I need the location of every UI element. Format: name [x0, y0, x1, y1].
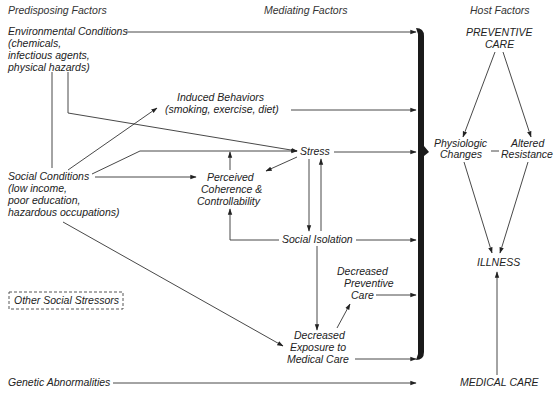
causal-model-diagram: Predisposing Factors Mediating Factors H…	[0, 0, 554, 394]
svg-text:infectious agents,: infectious agents,	[8, 49, 90, 61]
svg-text:Medical Care: Medical Care	[287, 353, 349, 365]
svg-text:Resistance: Resistance	[501, 148, 553, 160]
node-physiologic-changes: Physiologic Changes	[434, 137, 488, 160]
node-social-isolation: Social Isolation	[282, 233, 353, 245]
svg-text:(chemicals,: (chemicals,	[8, 37, 61, 49]
svg-text:Environmental Conditions: Environmental Conditions	[8, 25, 128, 37]
node-genetic-abnormalities: Genetic Abnormalities	[8, 376, 111, 388]
svg-text:Induced Behaviors: Induced Behaviors	[177, 91, 265, 103]
svg-text:Changes: Changes	[440, 148, 483, 160]
svg-text:hazardous occupations): hazardous occupations)	[8, 206, 120, 218]
connectors	[52, 32, 531, 383]
node-other-social-stressors: Other Social Stressors	[9, 292, 123, 309]
node-illness: ILLNESS	[477, 256, 520, 268]
node-preventive-care: PREVENTIVE CARE	[466, 26, 534, 50]
node-altered-resistance: Altered Resistance	[501, 137, 553, 160]
svg-text:Preventive: Preventive	[344, 277, 394, 289]
convergence-bracket	[416, 28, 429, 360]
svg-text:physical hazards): physical hazards)	[7, 61, 90, 73]
svg-text:(low income,: (low income,	[8, 182, 67, 194]
svg-text:poor education,: poor education,	[7, 194, 80, 206]
svg-text:Exposure to: Exposure to	[290, 341, 346, 353]
svg-text:CARE: CARE	[485, 38, 515, 50]
svg-text:Social Conditions: Social Conditions	[8, 170, 90, 182]
node-decreased-preventive-care: Decreased Preventive Care	[337, 265, 394, 301]
svg-text:(smoking, exercise, diet): (smoking, exercise, diet)	[165, 103, 279, 115]
svg-text:Other Social Stressors: Other Social Stressors	[14, 294, 120, 306]
node-perceived-coherence: Perceived Coherence & Controllability	[197, 171, 262, 207]
svg-text:Care: Care	[351, 289, 374, 301]
svg-text:Controllability: Controllability	[197, 195, 261, 207]
node-medical-care: MEDICAL CARE	[460, 376, 540, 388]
svg-text:PREVENTIVE: PREVENTIVE	[466, 26, 534, 38]
node-environmental-conditions: Environmental Conditions (chemicals, inf…	[7, 25, 128, 73]
header-predisposing-factors: Predisposing Factors	[8, 4, 107, 16]
svg-text:Decreased: Decreased	[337, 265, 389, 277]
header-mediating-factors: Mediating Factors	[264, 4, 348, 16]
node-decreased-exposure: Decreased Exposure to Medical Care	[287, 329, 349, 365]
header-host-factors: Host Factors	[470, 4, 530, 16]
svg-text:Decreased: Decreased	[294, 329, 346, 341]
svg-text:Perceived: Perceived	[207, 171, 255, 183]
node-stress: Stress	[300, 145, 331, 157]
svg-text:Coherence &: Coherence &	[201, 183, 262, 195]
node-induced-behaviors: Induced Behaviors (smoking, exercise, di…	[165, 91, 279, 115]
